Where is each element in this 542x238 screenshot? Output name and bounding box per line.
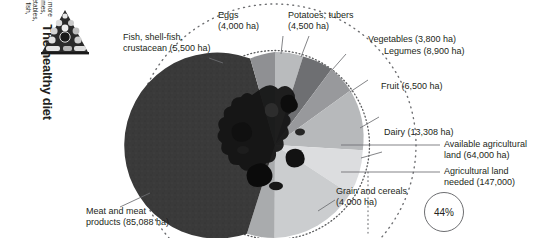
label-eggs: Eggs (4,000 ha) [218,10,259,32]
label-needed-land: Agricultural land needed (147,000) [444,166,515,188]
label-available-land: Available agricultural land (64,000 ha) [444,139,527,161]
label-dairy: Dairy (13,308 ha) [384,127,454,138]
infographic-canvas: The healthy diet a lot more legumes, veg… [0,0,542,238]
label-potatoes: Potatoes, tubers (4,500 ha) [288,10,354,32]
label-fish: Fish, shell-fish, crustacean (5,500 ha) [123,32,211,54]
label-grain: Grain and cereals (4,000 ha) [336,186,407,208]
label-vegetables: Vegetables (3,800 ha) [368,34,456,45]
label-fruit: Fruit (6,500 ha) [381,81,443,92]
label-meat: Meat and meat products (85,088 ha) [86,206,169,228]
ratio-badge: 44% [424,192,464,232]
label-legumes: Legumes (8,900 ha) [384,46,465,57]
